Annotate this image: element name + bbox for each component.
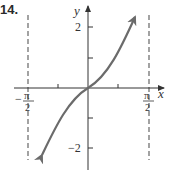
y-tick-label-2: 2 (75, 20, 81, 34)
x-label-neg-pi: π (24, 89, 30, 101)
x-label-pos-pi: π (144, 89, 150, 101)
x-label-neg-minus: − (15, 92, 22, 106)
tangent-graph: y 2 −2 x − π 2 π 2 (0, 0, 170, 173)
x-label-neg-two: 2 (25, 102, 30, 113)
x-label-pos-two: 2 (145, 102, 150, 113)
x-axis-label: x (157, 86, 164, 101)
y-tick-label-neg2: −2 (68, 141, 81, 155)
y-axis-label: y (72, 3, 80, 18)
